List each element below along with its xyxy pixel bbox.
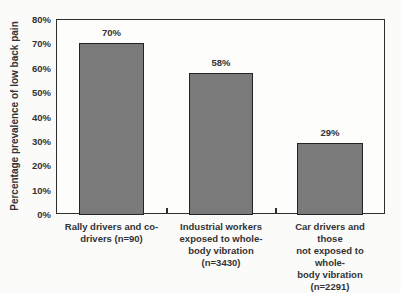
bar-value-label: 70% (102, 27, 121, 38)
bar-value-label: 58% (211, 57, 230, 68)
y-tick-label: 10% (32, 184, 51, 195)
y-tick-label: 40% (32, 111, 51, 122)
x-category-label: Rally drivers and co-drivers (n=90) (65, 221, 158, 245)
y-tick-label: 20% (32, 160, 51, 171)
bar-value-label: 29% (320, 127, 339, 138)
y-tick-label: 50% (32, 87, 51, 98)
x-category-label: Industrial workersexposed to whole-body … (180, 221, 263, 269)
y-tick-label: 0% (37, 209, 51, 220)
bar (79, 43, 144, 215)
bar (189, 73, 253, 215)
y-axis-label: Percentage prevalence of low back pain (9, 21, 20, 211)
y-tick-label: 70% (32, 38, 51, 49)
x-tick-mark (166, 208, 168, 214)
y-tick-label: 30% (32, 135, 51, 146)
y-tick-label: 60% (32, 62, 51, 73)
bar (297, 143, 363, 215)
y-tick-label: 80% (32, 14, 51, 25)
x-tick-mark (275, 208, 277, 214)
x-category-label: Car drivers and thosenot exposed to whol… (295, 221, 366, 293)
